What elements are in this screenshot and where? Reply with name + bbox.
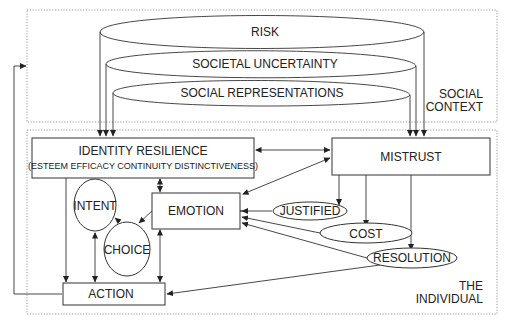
identity-resilience-subtitle: (ESTEEM EFFICACY CONTINUITY DISTINCTIVEN… [28, 161, 258, 171]
resolution-label: RESOLUTION [373, 251, 451, 265]
cost-label: COST [349, 227, 383, 241]
social-representations-label: SOCIAL REPRESENTATIONS [180, 86, 343, 100]
action-label: ACTION [88, 287, 133, 301]
societal-uncertainty-label: SOCIETAL UNCERTAINTY [192, 57, 338, 71]
intent-label: INTENT [73, 199, 117, 213]
social-context-label-line1: SOCIAL [439, 87, 483, 101]
mistrust-label: MISTRUST [380, 150, 442, 164]
diagram-canvas: RISK SOCIETAL UNCERTAINTY SOCIAL REPRESE… [0, 0, 508, 328]
social-context-label-line2: CONTEXT [426, 100, 484, 114]
justified-label: JUSTIFIED [280, 204, 341, 218]
emotion-label: EMOTION [168, 204, 224, 218]
choice-label: CHOICE [104, 243, 151, 257]
risk-label: RISK [251, 25, 279, 39]
individual-label-line2: INDIVIDUAL [416, 292, 484, 306]
identity-resilience-title: IDENTITY RESILIENCE [78, 144, 207, 158]
individual-label-line1: THE [459, 279, 483, 293]
connectors [14, 66, 411, 294]
